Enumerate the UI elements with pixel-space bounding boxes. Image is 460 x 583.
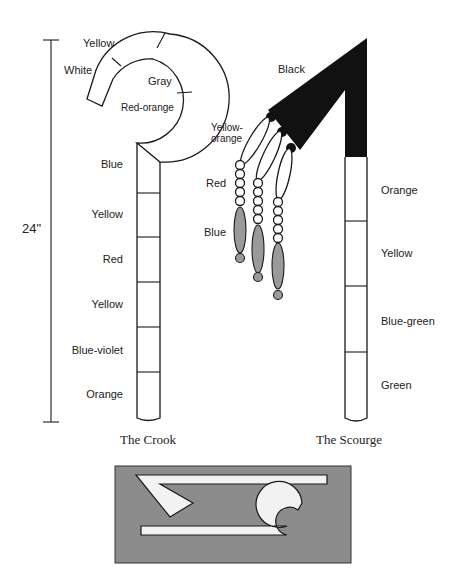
strand-label-blue: Blue <box>204 226 226 238</box>
crook-label-blue-violet: Blue-violet <box>72 344 123 356</box>
scourge-label-yellow: Yellow <box>381 247 412 259</box>
crook-caption: The Crook <box>120 432 176 447</box>
scourge-label-green: Green <box>381 379 412 391</box>
scourge-label-orange: Orange <box>381 184 418 196</box>
regalia-diagram: 24" Yellow White Gray Red-orange Blue Ye… <box>0 0 460 583</box>
crook-label-gray: Gray <box>148 75 172 87</box>
crook-label-red: Red <box>103 253 123 265</box>
crook-label-yellow-top: Yellow <box>83 37 114 49</box>
scourge-strands <box>234 112 296 300</box>
crook-hook <box>87 32 229 162</box>
dimension-label: 24" <box>22 221 41 236</box>
crook-label-orange: Orange <box>86 388 123 400</box>
crook-label-red-orange: Red-orange <box>121 102 174 113</box>
crook-label-yellow-2: Yellow <box>92 298 123 310</box>
crook-label-blue: Blue <box>101 158 123 170</box>
crook-label-yellow-1: Yellow <box>92 208 123 220</box>
strand-3 <box>272 143 296 300</box>
strand-label-yellow: Yellow- <box>211 122 243 133</box>
strand-label-orange: orange <box>211 133 243 144</box>
scourge-label-black: Black <box>278 63 305 75</box>
scourge-label-blue-green: Blue-green <box>381 315 435 327</box>
strand-label-red: Red <box>206 177 226 189</box>
crook-label-white: White <box>64 64 92 76</box>
scourge-caption: The Scourge <box>316 432 382 447</box>
dimension-line <box>43 40 59 422</box>
crook-shaft <box>137 143 160 421</box>
inset-crossed-regalia <box>115 466 351 563</box>
